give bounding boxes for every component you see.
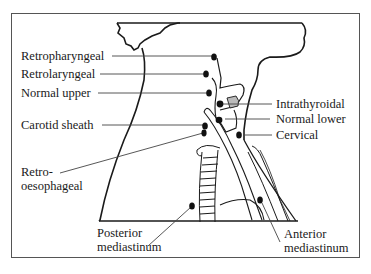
label-retro-oesophageal-1: Retro-	[21, 165, 53, 179]
thyroid-lobe	[227, 96, 239, 108]
node-normal-lower	[216, 117, 223, 123]
leader-retro-oesophageal	[60, 133, 203, 173]
node-cervical	[236, 131, 242, 138]
node-normal-upper	[206, 89, 212, 96]
node-carotid-sheath	[202, 122, 208, 129]
label-cervical: Cervical	[276, 128, 318, 142]
label-retrolaryngeal: Retrolaryngeal	[21, 67, 95, 81]
label-posterior-mediastinum-1: Posterior	[97, 226, 142, 240]
node-posterior-mediastinum	[189, 202, 195, 209]
sternum	[260, 150, 290, 221]
label-retropharyngeal: Retropharyngeal	[21, 49, 104, 63]
label-normal-lower: Normal lower	[276, 112, 346, 126]
carotid-cap	[204, 108, 210, 112]
node-anterior-mediastinum	[257, 196, 263, 203]
node-retropharyngeal	[211, 53, 217, 60]
label-normal-upper: Normal upper	[21, 86, 91, 100]
label-carotid-sheath: Carotid sheath	[21, 118, 94, 132]
label-anterior-mediastinum-2: mediastinum	[284, 241, 349, 255]
node-retro-oesophageal	[201, 130, 206, 137]
node-retrolaryngeal	[203, 70, 209, 77]
aortic-arch	[220, 200, 264, 220]
head-back-outline	[117, 23, 180, 50]
neck-front-outline	[244, 140, 296, 221]
leader-anterior-mediastinum	[262, 203, 280, 242]
label-retro-oesophageal-2: oesophageal	[21, 179, 83, 193]
trachea	[197, 145, 220, 222]
leader-lines	[60, 56, 280, 246]
label-posterior-mediastinum-2: mediastinum	[97, 240, 162, 254]
label-anterior-mediastinum-1: Anterior	[284, 227, 326, 241]
label-intrathyroidal: Intrathyroidal	[276, 97, 345, 111]
node-intrathyroidal	[217, 101, 224, 108]
